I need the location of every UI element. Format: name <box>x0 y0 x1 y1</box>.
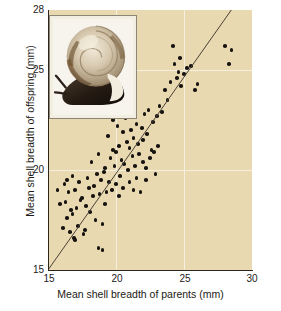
x-axis-title: Mean shell breadth of parents (mm) <box>0 288 281 300</box>
x-tick-label-15: 15 <box>43 274 54 284</box>
x-axis-line <box>48 270 253 271</box>
x-tick-label-20: 20 <box>111 274 122 284</box>
snail-icon <box>53 19 133 115</box>
x-tick-label-25: 25 <box>179 274 190 284</box>
snail-inset-frame <box>49 15 137 119</box>
figure-container: 15 20 25 30 15 20 25 28 Mean shell bread… <box>0 0 281 311</box>
y-tick-label-28: 28 <box>22 5 44 15</box>
y-tick-label-15: 15 <box>22 265 44 275</box>
x-tick-label-30: 30 <box>246 274 257 284</box>
y-axis-title: Mean shell breadth of offspring (mm) <box>24 16 36 246</box>
